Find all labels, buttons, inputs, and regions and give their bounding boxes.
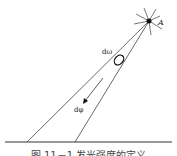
source-label: A [158, 19, 164, 27]
point-source [147, 19, 152, 24]
flux-label: dφ [74, 107, 83, 114]
flux-arrow [83, 78, 103, 104]
cone-lines [27, 21, 149, 142]
luminous-intensity-diagram [0, 0, 177, 156]
figure-caption: 图 11－1 发光强度的定义 [0, 147, 177, 156]
solid-angle-label: dω [102, 49, 112, 56]
